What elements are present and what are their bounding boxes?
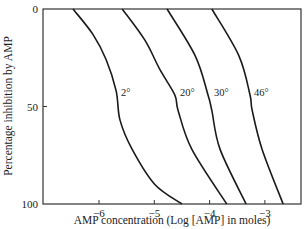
plot-frame: [43, 9, 301, 204]
curve-labels: 2°20°30°46°: [121, 87, 269, 98]
curve-label: 46°: [254, 87, 269, 98]
y-tick-label: 50: [27, 101, 39, 113]
y-axis-title: Percentage inhibition by AMP: [2, 36, 15, 176]
y-tick-label: 0: [33, 3, 39, 15]
curve-2deg: [73, 9, 182, 204]
curve-label: 30°: [214, 87, 229, 98]
chart: −6−5−4−3 050100 2°20°30°46° AMP concentr…: [0, 0, 307, 229]
curves: [73, 9, 283, 204]
y-tick-label: 100: [22, 198, 39, 210]
curve-46deg: [212, 9, 283, 204]
curve-label: 20°: [180, 87, 195, 98]
x-axis-title: AMP concentration (Log [AMP] in moles): [74, 214, 271, 227]
curve-label: 2°: [121, 87, 130, 98]
